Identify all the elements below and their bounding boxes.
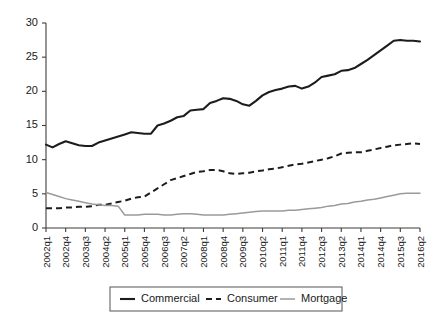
y-tick-label: 25 xyxy=(26,50,38,62)
x-tick-label: 2015q3 xyxy=(395,236,406,268)
x-tick-group: 2002q12002q42003q32004q22005q12005q42006… xyxy=(41,228,426,268)
series-line-commercial xyxy=(46,40,420,147)
x-tick-label: 2008q4 xyxy=(218,236,229,268)
x-tick-label: 2005q4 xyxy=(139,236,150,268)
x-tick-label: 2012q3 xyxy=(316,236,327,268)
x-tick-label: 2016q2 xyxy=(415,236,426,268)
y-tick-label: 10 xyxy=(26,153,38,165)
x-tick-label: 2004q2 xyxy=(100,236,111,268)
legend-label-commercial: Commercial xyxy=(141,292,200,304)
x-tick-label: 2011q1 xyxy=(277,236,288,267)
y-tick-label: 0 xyxy=(32,221,38,233)
y-tick-label: 5 xyxy=(32,187,38,199)
x-tick-label: 2014q1 xyxy=(355,236,366,268)
x-tick-label: 2011q4 xyxy=(296,236,307,267)
x-tick-label: 2002q4 xyxy=(60,236,71,268)
x-tick-label: 2005q1 xyxy=(119,236,130,268)
legend-label-mortgage: Mortgage xyxy=(301,292,347,304)
y-tick-label: 15 xyxy=(26,118,38,130)
legend-label-consumer: Consumer xyxy=(227,292,278,304)
x-tick-label: 2014q4 xyxy=(375,236,386,268)
x-tick-label: 2006q3 xyxy=(159,236,170,268)
x-tick-label: 2009q3 xyxy=(237,236,248,268)
series-line-consumer xyxy=(46,143,420,208)
series-group xyxy=(46,40,420,215)
x-tick-label: 2010q2 xyxy=(257,236,268,268)
x-tick-label: 2003q3 xyxy=(80,236,91,268)
y-tick-label: 30 xyxy=(26,16,38,28)
y-tick-group: 051015202530 xyxy=(26,16,46,233)
x-axis: 2002q12002q42003q32004q22005q12005q42006… xyxy=(41,228,426,268)
series-line-mortgage xyxy=(46,192,420,215)
x-tick-label: 2008q1 xyxy=(198,236,209,268)
x-tick-label: 2007q2 xyxy=(178,236,189,268)
chart-legend: CommercialConsumerMortgage xyxy=(110,287,347,311)
x-tick-label: 2002q1 xyxy=(41,236,52,268)
y-axis: 051015202530 xyxy=(26,16,46,233)
x-tick-label: 2013q2 xyxy=(336,236,347,268)
chart-container: 051015202530 2002q12002q42003q32004q2200… xyxy=(0,0,444,324)
y-tick-label: 20 xyxy=(26,84,38,96)
line-chart: 051015202530 2002q12002q42003q32004q2200… xyxy=(0,0,444,324)
